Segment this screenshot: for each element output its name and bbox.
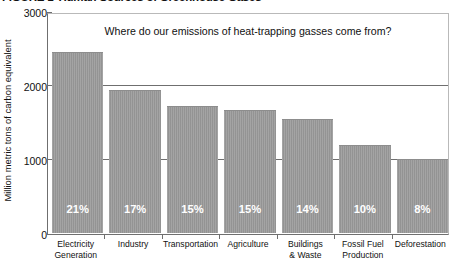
figure-caption-title: Human Sources of Greenhouse Gases bbox=[58, 0, 261, 3]
x-axis-category-line: Generation bbox=[47, 250, 104, 261]
x-axis-category-line: Agriculture bbox=[219, 239, 276, 250]
x-axis-category-line: & Waste bbox=[277, 250, 334, 261]
bar-value-label: 8% bbox=[397, 203, 448, 215]
x-axis-category-label: Buildings& Waste bbox=[277, 239, 334, 260]
y-axis-ticks: 0100020003000 bbox=[0, 13, 47, 235]
figure-container: FIGURE 1Human Sources of Greenhouse Gase… bbox=[0, 0, 453, 269]
bar-value-label: 21% bbox=[52, 203, 103, 215]
x-axis-category-label: Agriculture bbox=[219, 239, 276, 250]
x-axis-category-label: ElectricityGeneration bbox=[47, 239, 104, 260]
bar[interactable]: 17% bbox=[109, 90, 160, 233]
bar-slot: 21% bbox=[52, 14, 103, 233]
x-axis-category-line: Industry bbox=[104, 239, 161, 250]
bar[interactable]: 15% bbox=[167, 106, 218, 233]
x-axis-category-label: Fossil FuelProduction bbox=[334, 239, 391, 260]
y-tick-label: 1000 bbox=[13, 155, 47, 167]
figure-caption: FIGURE 1Human Sources of Greenhouse Gase… bbox=[2, 0, 261, 3]
x-axis-category-line: Buildings bbox=[277, 239, 334, 250]
bar-value-label: 14% bbox=[282, 203, 333, 215]
bar-slot: 8% bbox=[397, 14, 448, 233]
bar-slot: 15% bbox=[224, 14, 275, 233]
bar[interactable]: 8% bbox=[397, 159, 448, 233]
plot-area: Where do our emissions of heat-trapping … bbox=[47, 13, 449, 235]
x-axis-category-line: Fossil Fuel bbox=[334, 239, 391, 250]
bar-value-label: 17% bbox=[109, 203, 160, 215]
bar-slot: 15% bbox=[167, 14, 218, 233]
bar-slot: 14% bbox=[282, 14, 333, 233]
bar-value-label: 10% bbox=[339, 203, 390, 215]
x-axis-labels: ElectricityGenerationIndustryTransportat… bbox=[47, 239, 449, 269]
x-axis-category-label: Industry bbox=[104, 239, 161, 250]
bar[interactable]: 14% bbox=[282, 119, 333, 233]
bar[interactable]: 10% bbox=[339, 145, 390, 233]
x-axis-category-line: Transportation bbox=[162, 239, 219, 250]
bar-series: 21%17%15%15%14%10%8% bbox=[49, 14, 447, 233]
x-axis-category-line: Electricity bbox=[47, 239, 104, 250]
y-tick-label: 3000 bbox=[13, 7, 47, 19]
bar[interactable]: 15% bbox=[224, 110, 275, 233]
bar-slot: 17% bbox=[109, 14, 160, 233]
bar[interactable]: 21% bbox=[52, 52, 103, 233]
bar-value-label: 15% bbox=[167, 203, 218, 215]
bar-slot: 10% bbox=[339, 14, 390, 233]
y-tick-label: 2000 bbox=[13, 81, 47, 93]
y-tick-label: 0 bbox=[13, 229, 47, 241]
x-axis-category-line: Production bbox=[334, 250, 391, 261]
x-axis-category-label: Deforestation bbox=[392, 239, 449, 250]
x-axis-category-label: Transportation bbox=[162, 239, 219, 250]
x-axis-category-line: Deforestation bbox=[392, 239, 449, 250]
bar-value-label: 15% bbox=[224, 203, 275, 215]
